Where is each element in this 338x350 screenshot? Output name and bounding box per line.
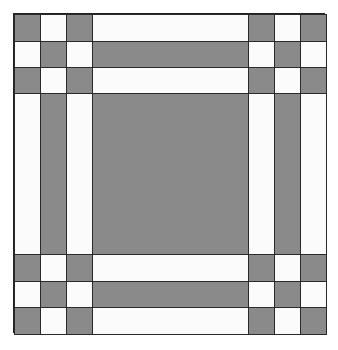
corner-square — [40, 254, 67, 282]
strip-patch — [92, 67, 249, 94]
corner-square — [274, 281, 301, 308]
corner-square — [300, 14, 327, 42]
corner-square — [66, 67, 93, 94]
corner-square — [66, 307, 93, 335]
strip-patch — [92, 281, 249, 308]
strip-patch — [92, 14, 249, 42]
corner-square — [248, 67, 275, 94]
corner-square — [40, 41, 67, 68]
corner-square — [300, 41, 327, 68]
corner-square — [248, 254, 275, 282]
corner-square — [274, 254, 301, 282]
strip-patch — [92, 307, 249, 335]
corner-square — [248, 14, 275, 42]
corner-square — [14, 281, 41, 308]
strip-patch — [66, 93, 93, 255]
center-square — [92, 93, 249, 255]
corner-square — [274, 41, 301, 68]
corner-square — [14, 14, 41, 42]
corner-square — [66, 14, 93, 42]
corner-square — [66, 281, 93, 308]
strip-patch — [274, 93, 301, 255]
corner-square — [66, 41, 93, 68]
corner-square — [66, 254, 93, 282]
corner-square — [14, 254, 41, 282]
corner-square — [14, 67, 41, 94]
corner-square — [40, 67, 67, 94]
strip-patch — [300, 93, 327, 255]
corner-square — [274, 307, 301, 335]
corner-square — [14, 307, 41, 335]
corner-square — [40, 307, 67, 335]
strip-patch — [40, 93, 67, 255]
strip-patch — [92, 41, 249, 68]
strip-patch — [14, 93, 41, 255]
corner-square — [300, 67, 327, 94]
corner-square — [248, 281, 275, 308]
corner-square — [248, 41, 275, 68]
corner-square — [300, 254, 327, 282]
corner-square — [300, 307, 327, 335]
strip-patch — [248, 93, 275, 255]
quilt-block — [13, 13, 325, 333]
corner-square — [40, 281, 67, 308]
strip-patch — [92, 254, 249, 282]
corner-square — [40, 14, 67, 42]
corner-square — [274, 14, 301, 42]
corner-square — [248, 307, 275, 335]
corner-square — [300, 281, 327, 308]
corner-square — [14, 41, 41, 68]
corner-square — [274, 67, 301, 94]
